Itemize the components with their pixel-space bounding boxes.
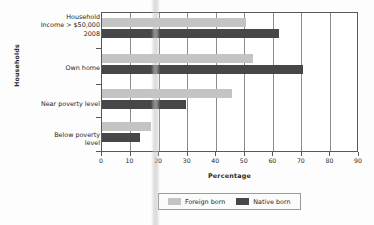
- x-axis-tick: [158, 152, 159, 156]
- x-axis-tick: [358, 152, 359, 156]
- x-axis-tick-label: 0: [89, 157, 113, 164]
- x-axis-tick-label: 20: [146, 157, 170, 164]
- chart-figure: Households Household Income > $50,000 20…: [0, 0, 374, 225]
- y-axis-title: Households: [13, 36, 20, 96]
- x-axis-tick: [130, 152, 131, 156]
- category-label-below-poverty-level: Below poverty level: [26, 131, 100, 148]
- bar-foreign-below-poverty-level[interactable]: [102, 122, 151, 131]
- legend-item-native-born[interactable]: Native born: [236, 198, 290, 206]
- bar-foreign-own-home[interactable]: [102, 54, 253, 63]
- gridline: [330, 13, 331, 151]
- plot-area: [101, 12, 358, 152]
- x-axis-tick-label: 50: [232, 157, 256, 164]
- bar-native-household-income[interactable]: [102, 29, 279, 38]
- bar-native-near-poverty-level[interactable]: [102, 100, 186, 109]
- category-label-line: Income > $50,000: [26, 21, 100, 29]
- x-axis-tick-label: 10: [118, 157, 142, 164]
- category-label-line: 2008: [26, 30, 100, 38]
- category-label-household-income: Household Income > $50,000 2008: [26, 13, 100, 38]
- bar-native-below-poverty-level[interactable]: [102, 133, 140, 142]
- x-axis-tick-label: 40: [203, 157, 227, 164]
- category-label-line: Below poverty: [26, 131, 100, 139]
- category-label-line: level: [26, 139, 100, 147]
- x-axis-tick: [215, 152, 216, 156]
- x-axis-tick: [244, 152, 245, 156]
- legend-swatch-icon: [168, 198, 181, 205]
- legend-swatch-icon: [236, 198, 249, 205]
- legend-item-foreign-born[interactable]: Foreign born: [168, 198, 225, 206]
- x-axis-tick: [272, 152, 273, 156]
- category-label-near-poverty-level: Near poverty level: [26, 100, 100, 108]
- category-axis-labels: Household Income > $50,000 2008 Own home…: [26, 12, 100, 152]
- bar-native-own-home[interactable]: [102, 65, 303, 74]
- x-axis-tick: [301, 152, 302, 156]
- x-axis-tick-label: 60: [260, 157, 284, 164]
- x-axis-tick-label: 80: [317, 157, 341, 164]
- x-axis-tick-label: 30: [175, 157, 199, 164]
- x-axis-tick: [329, 152, 330, 156]
- x-axis-title: Percentage: [101, 172, 358, 180]
- bar-foreign-near-poverty-level[interactable]: [102, 89, 232, 98]
- category-label-line: Household: [26, 13, 100, 21]
- x-axis-tick: [101, 152, 102, 156]
- x-axis-tick: [187, 152, 188, 156]
- x-axis-tick-label: 90: [346, 157, 370, 164]
- x-axis-tick-label: 70: [289, 157, 313, 164]
- category-label-line: Own home: [26, 64, 100, 72]
- legend-label: Native born: [253, 198, 290, 206]
- gridline: [301, 13, 302, 151]
- category-label-own-home: Own home: [26, 64, 100, 72]
- category-label-line: Near poverty level: [26, 100, 100, 108]
- legend: Foreign born Native born: [158, 193, 301, 210]
- bar-foreign-household-income[interactable]: [102, 18, 246, 27]
- legend-label: Foreign born: [185, 198, 225, 206]
